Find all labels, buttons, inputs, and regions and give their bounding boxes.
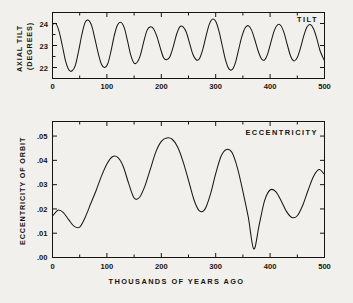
- x-axis-caption: THOUSANDS OF YEARS AGO: [0, 277, 353, 286]
- ecc-plot-frame: [53, 122, 325, 258]
- svg-text:200: 200: [155, 82, 168, 91]
- ecc-x-ticks: [53, 122, 325, 258]
- axial-tilt-chart: AXIAL TILT (DEGREES) 24 23 22 01002003: [0, 0, 353, 105]
- ecc-y-axis-label: ECCENTRICITY OF ORBIT: [18, 137, 27, 245]
- svg-text:.05: .05: [37, 132, 48, 141]
- tilt-ytick-22: 22: [40, 64, 48, 73]
- tilt-y-axis-label-line2: (DEGREES): [25, 22, 34, 70]
- svg-text:500: 500: [318, 262, 331, 271]
- milankovitch-cycles-figure: AXIAL TILT (DEGREES) 24 23 22 01002003: [0, 0, 353, 303]
- svg-text:100: 100: [101, 262, 114, 271]
- svg-text:.02: .02: [37, 205, 48, 214]
- tilt-series-title: TILT: [297, 15, 318, 24]
- svg-text:400: 400: [264, 262, 277, 271]
- eccentricity-curve: [53, 138, 325, 249]
- svg-text:200: 200: [155, 262, 168, 271]
- svg-text:100: 100: [101, 82, 114, 91]
- ecc-y-tick-labels: .00.01.02.03.04.05: [37, 132, 48, 262]
- axial-tilt-curve: [53, 19, 325, 71]
- svg-text:.00: .00: [37, 253, 48, 262]
- svg-text:0: 0: [50, 82, 54, 91]
- svg-text:0: 0: [50, 262, 54, 271]
- svg-text:500: 500: [318, 82, 331, 91]
- eccentricity-series-title: ECCENTRICITY: [245, 128, 318, 137]
- svg-text:300: 300: [209, 262, 222, 271]
- tilt-plot-frame: [53, 13, 325, 79]
- svg-text:.01: .01: [37, 229, 48, 238]
- tilt-x-tick-labels: 0100200300400500: [50, 82, 330, 91]
- tilt-x-ticks: [53, 13, 325, 79]
- tilt-ytick-24: 24: [40, 20, 49, 29]
- svg-text:300: 300: [209, 82, 222, 91]
- svg-text:.04: .04: [37, 156, 48, 165]
- tilt-y-axis-label-line1: AXIAL TILT: [15, 25, 24, 72]
- svg-text:.03: .03: [37, 180, 48, 189]
- tilt-ytick-23: 23: [40, 42, 48, 51]
- svg-text:400: 400: [264, 82, 277, 91]
- eccentricity-chart: ECCENTRICITY OF ORBIT .00.01.02.03.04.05…: [0, 105, 353, 280]
- ecc-x-tick-labels: 0100200300400500: [50, 262, 330, 271]
